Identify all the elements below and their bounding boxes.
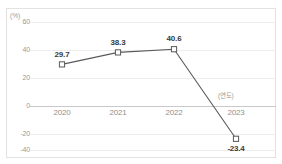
x-tick-label-2021: 2021	[98, 108, 138, 118]
y-tick-label-60: 60	[8, 18, 30, 26]
data-marker-2022	[171, 47, 176, 52]
x-tick-label-2022: 2022	[154, 108, 194, 118]
data-marker-2021	[115, 50, 120, 55]
y-tick-label-neg20: -20	[8, 130, 30, 138]
series-polyline	[62, 49, 236, 139]
y-tick-label-40: 40	[8, 46, 30, 54]
x-axis-unit-label: (연도)	[218, 92, 234, 100]
data-label-2020: 29.7	[40, 50, 84, 59]
data-marker-2023	[233, 136, 238, 141]
data-label-2022: 40.6	[152, 34, 196, 43]
y-tick-label-20: 20	[8, 74, 30, 82]
data-label-2021: 38.3	[96, 38, 140, 47]
x-tick-label-2020: 2020	[42, 108, 82, 118]
series-line-group	[30, 8, 276, 158]
data-label-2023: -23.4	[214, 144, 258, 153]
y-tick-label-0: 0	[8, 102, 30, 110]
data-marker-2020	[59, 62, 64, 67]
x-tick-label-2023: 2023	[216, 108, 256, 118]
line-chart: (%) 60 40 20 0 -20 -40 29.7 38.3 40.6 -2…	[0, 0, 282, 164]
y-tick-label-neg40: -40	[8, 146, 30, 154]
plot-area: 29.7 38.3 40.6 -23.4 (연도) 2020 2021 2022…	[30, 8, 276, 158]
